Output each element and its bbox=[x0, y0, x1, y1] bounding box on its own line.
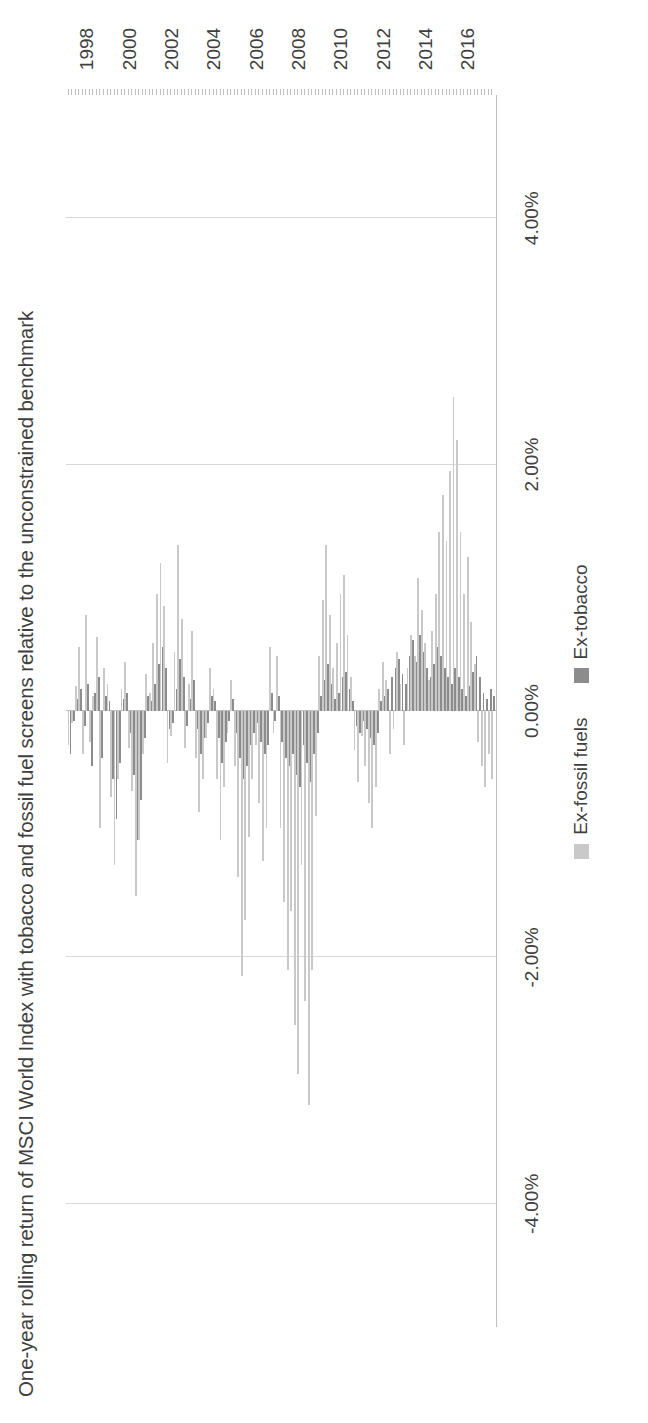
category-minor-tick bbox=[304, 89, 305, 95]
category-minor-tick bbox=[114, 89, 115, 95]
bar-ex-tobacco bbox=[402, 674, 404, 711]
bar-ex-tobacco bbox=[144, 711, 146, 738]
category-minor-tick bbox=[266, 89, 267, 95]
category-minor-tick bbox=[103, 89, 104, 95]
bar-series-container bbox=[66, 95, 496, 1327]
category-minor-tick bbox=[198, 89, 199, 95]
bar-ex-tobacco bbox=[387, 689, 389, 711]
bar-ex-tobacco bbox=[274, 711, 276, 721]
bar-ex-fossil-fuels bbox=[449, 471, 451, 711]
value-axis-label: 0.00% bbox=[521, 684, 543, 738]
bar-ex-fossil-fuels bbox=[389, 711, 391, 754]
bar-ex-tobacco bbox=[228, 711, 230, 721]
category-axis-label: 2010 bbox=[330, 28, 352, 70]
category-minor-tick bbox=[71, 89, 72, 95]
category-axis-label: 2006 bbox=[246, 28, 268, 70]
bar-ex-tobacco bbox=[73, 711, 75, 721]
category-axis-label: 2002 bbox=[161, 28, 183, 70]
category-minor-tick bbox=[340, 89, 341, 95]
bar-ex-tobacco bbox=[232, 699, 234, 711]
bar-ex-fossil-fuels bbox=[460, 532, 462, 711]
category-minor-tick bbox=[248, 89, 249, 95]
bar-ex-tobacco bbox=[91, 711, 93, 766]
legend-item[interactable]: Ex-tobacco bbox=[570, 564, 592, 683]
category-minor-tick bbox=[318, 89, 319, 95]
category-minor-tick bbox=[435, 89, 436, 95]
bar-ex-tobacco bbox=[214, 701, 216, 711]
category-minor-tick bbox=[332, 89, 333, 95]
category-minor-tick bbox=[389, 89, 390, 95]
category-minor-tick bbox=[325, 89, 326, 95]
category-minor-tick bbox=[393, 89, 394, 95]
category-minor-tick bbox=[184, 89, 185, 95]
legend-label: Ex-tobacco bbox=[570, 564, 592, 659]
bar-ex-fossil-fuels bbox=[453, 397, 455, 711]
category-minor-tick bbox=[456, 89, 457, 95]
category-minor-tick bbox=[280, 89, 281, 95]
category-axis-label: 2008 bbox=[288, 28, 310, 70]
bar-ex-tobacco bbox=[193, 680, 195, 711]
category-minor-tick bbox=[347, 89, 348, 95]
category-minor-tick bbox=[428, 89, 429, 95]
bar-ex-tobacco bbox=[486, 699, 488, 711]
category-minor-tick bbox=[403, 89, 404, 95]
category-minor-tick bbox=[96, 89, 97, 95]
bar-ex-tobacco bbox=[172, 711, 174, 723]
category-minor-tick bbox=[258, 89, 259, 95]
category-minor-tick bbox=[99, 89, 100, 95]
category-minor-tick bbox=[336, 89, 337, 95]
category-minor-tick bbox=[474, 89, 475, 95]
bar-ex-tobacco bbox=[119, 711, 121, 763]
bar-ex-tobacco bbox=[352, 701, 354, 711]
bar-ex-fossil-fuels bbox=[456, 440, 458, 711]
category-minor-tick bbox=[262, 89, 263, 95]
category-minor-tick bbox=[142, 89, 143, 95]
category-minor-tick bbox=[241, 89, 242, 95]
category-minor-tick bbox=[160, 89, 161, 95]
category-minor-tick bbox=[442, 89, 443, 95]
bar-ex-tobacco bbox=[98, 677, 100, 711]
bar-ex-tobacco bbox=[109, 701, 111, 711]
bar-ex-tobacco bbox=[490, 689, 492, 711]
category-minor-tick bbox=[152, 89, 153, 95]
category-minor-tick bbox=[269, 89, 270, 95]
category-minor-tick bbox=[491, 89, 492, 95]
bar-ex-tobacco bbox=[493, 696, 495, 711]
category-minor-tick bbox=[251, 89, 252, 95]
category-minor-tick bbox=[145, 89, 146, 95]
bar-ex-tobacco bbox=[207, 711, 209, 723]
category-minor-tick bbox=[156, 89, 157, 95]
category-minor-tick bbox=[297, 89, 298, 95]
legend-item[interactable]: Ex-fossil fuels bbox=[570, 717, 592, 858]
category-minor-tick bbox=[124, 89, 125, 95]
bar-ex-tobacco bbox=[183, 677, 185, 711]
category-minor-tick bbox=[396, 89, 397, 95]
category-minor-tick bbox=[488, 89, 489, 95]
category-minor-tick bbox=[227, 89, 228, 95]
bar-ex-tobacco bbox=[165, 668, 167, 711]
chart-figure: One-year rolling return of MSCI World In… bbox=[0, 0, 648, 1423]
category-minor-tick bbox=[460, 89, 461, 95]
category-axis-line bbox=[496, 95, 497, 1327]
category-minor-tick bbox=[308, 89, 309, 95]
legend-swatch-icon bbox=[574, 844, 589, 859]
bar-ex-tobacco bbox=[377, 711, 379, 733]
category-minor-tick bbox=[163, 89, 164, 95]
category-minor-tick bbox=[138, 89, 139, 95]
category-minor-tick bbox=[110, 89, 111, 95]
category-minor-tick bbox=[311, 89, 312, 95]
category-minor-tick bbox=[92, 89, 93, 95]
category-minor-tick bbox=[188, 89, 189, 95]
category-minor-tick bbox=[368, 89, 369, 95]
category-axis-label: 2000 bbox=[119, 28, 141, 70]
category-minor-tick bbox=[410, 89, 411, 95]
category-minor-tick bbox=[223, 89, 224, 95]
bar-ex-tobacco bbox=[80, 689, 82, 711]
category-axis-label: 2016 bbox=[457, 28, 479, 70]
category-minor-tick bbox=[484, 89, 485, 95]
category-minor-tick bbox=[477, 89, 478, 95]
category-minor-tick bbox=[290, 89, 291, 95]
category-minor-tick bbox=[216, 89, 217, 95]
category-minor-tick bbox=[371, 89, 372, 95]
plot-area bbox=[66, 95, 496, 1327]
